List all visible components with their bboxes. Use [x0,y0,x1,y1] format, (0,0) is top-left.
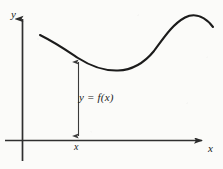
x-tick-label: x [74,142,78,152]
function-graph-figure: y x x y = f(x) [0,0,223,169]
function-curve [40,15,213,70]
graph-canvas [0,0,223,169]
x-axis-label: x [208,143,213,154]
function-equation-label: y = f(x) [79,92,114,103]
y-axis-label: y [11,9,16,20]
